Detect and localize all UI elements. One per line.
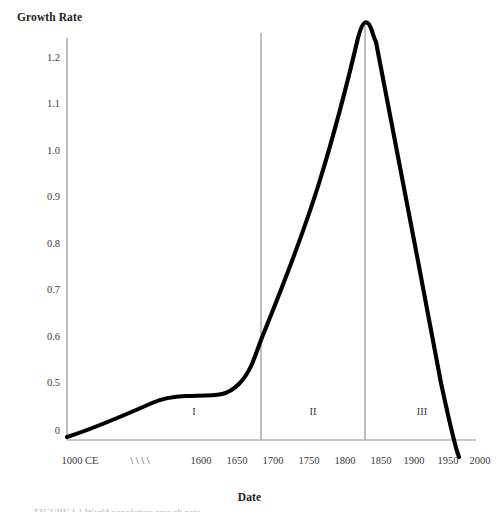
region-label-i: I bbox=[192, 406, 196, 417]
region-label-iii: III bbox=[417, 406, 428, 417]
x-tick-label: 1750 bbox=[299, 455, 320, 466]
x-tick-label: 1000 CE bbox=[61, 455, 98, 466]
x-axis-break-marks: \ \ \ \ bbox=[130, 455, 150, 466]
plot-area bbox=[0, 0, 499, 514]
x-tick-label: 1800 bbox=[335, 455, 356, 466]
x-tick-label: 1900 bbox=[404, 455, 425, 466]
x-tick-label: 1850 bbox=[371, 455, 392, 466]
x-tick-label: 1700 bbox=[263, 455, 284, 466]
growth-rate-line bbox=[67, 22, 459, 457]
region-label-ii: II bbox=[310, 406, 317, 417]
x-tick-label: 1600 bbox=[191, 455, 212, 466]
figure-growth-rate: Growth Rate 1.2 1.1 1.0 0.9 0.8 0.7 0.6 … bbox=[0, 0, 499, 514]
x-tick-label: 1650 bbox=[227, 455, 248, 466]
x-tick-label: 1950 bbox=[438, 455, 459, 466]
x-tick-label: 2000 bbox=[470, 455, 491, 466]
figure-caption: FIGURE 1.1 World population growth rate bbox=[34, 507, 406, 512]
x-axis-title: Date bbox=[0, 491, 499, 503]
